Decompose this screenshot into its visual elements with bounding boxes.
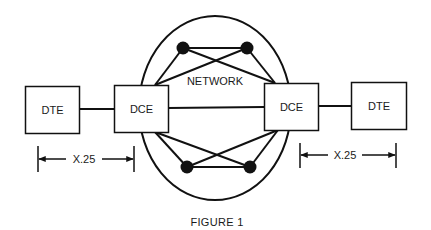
link-dce-dce <box>168 107 264 108</box>
dimension-label-left: X.25 <box>73 153 96 165</box>
network-diagram: NETWORK DTE DCE DCE DTE X.25 X.25 FIGURE… <box>0 0 431 230</box>
box-label-dce-left: DCE <box>130 103 153 115</box>
dimension-label-right: X.25 <box>334 149 357 161</box>
box-label-dte-right: DTE <box>368 100 390 112</box>
box-dte-right: DTE <box>352 83 407 130</box>
box-dce-right: DCE <box>265 84 319 131</box>
box-label-dte-left: DTE <box>42 104 64 116</box>
figure-caption: FIGURE 1 <box>190 216 243 228</box>
network-label: NETWORK <box>187 75 244 87</box>
box-dce-left: DCE <box>115 86 169 133</box>
node-bottom-left <box>181 161 194 174</box>
node-bottom-right <box>244 161 257 174</box>
box-label-dce-right: DCE <box>280 101 303 113</box>
node-top-left <box>177 42 190 55</box>
box-dte-left: DTE <box>26 87 80 134</box>
node-top-right <box>241 42 254 55</box>
